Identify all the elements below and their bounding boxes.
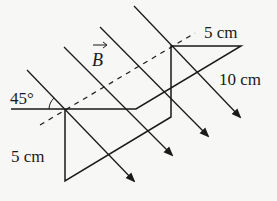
diagonal-length-label: 10 cm bbox=[219, 70, 261, 89]
angle-arc-45 bbox=[49, 98, 54, 109]
field-vector-label: B bbox=[92, 42, 107, 70]
field-line-arrow bbox=[100, 27, 208, 136]
field-line-arrow bbox=[64, 47, 172, 155]
wire-loop bbox=[11, 46, 241, 181]
angle-label: 45° bbox=[10, 89, 34, 108]
magnetic-field-loop-diagram: B 45° 5 cm 10 cm 5 cm bbox=[0, 0, 277, 201]
left-height-label: 5 cm bbox=[11, 147, 45, 166]
top-width-label: 5 cm bbox=[204, 23, 238, 42]
field-symbol: B bbox=[92, 50, 103, 70]
